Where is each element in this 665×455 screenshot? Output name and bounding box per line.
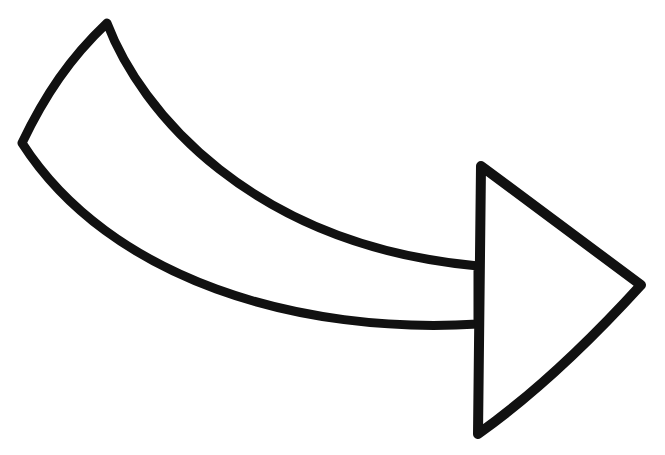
curved-arrow-right-icon (0, 0, 665, 455)
arrow-group (22, 23, 641, 434)
arrow-head (478, 166, 641, 434)
arrow-shaft (22, 23, 478, 325)
